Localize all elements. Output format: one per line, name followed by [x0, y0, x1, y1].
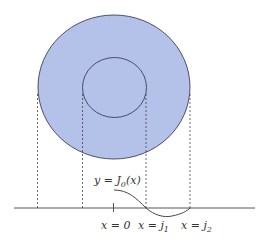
curve-label: y = J0(x) — [93, 174, 141, 189]
label-x-0: x = 0 — [101, 219, 130, 232]
outer-circle — [38, 15, 190, 159]
bessel-drumhead-diagram: y = J0(x) x = 0 x = j1 x = j2 — [0, 0, 268, 242]
bessel-j0-curve — [114, 190, 190, 217]
label-x-j2: x = j2 — [181, 219, 212, 234]
label-x-j1: x = j1 — [138, 219, 169, 234]
